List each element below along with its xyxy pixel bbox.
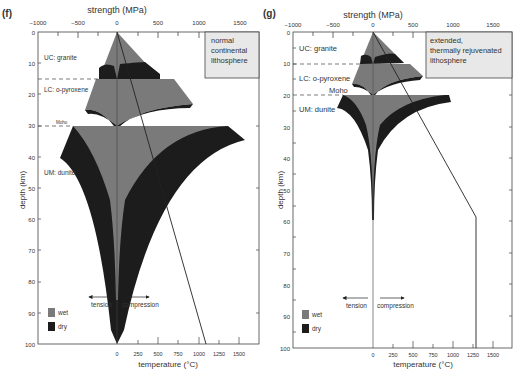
svg-text:70: 70 [283, 251, 290, 257]
svg-text:20: 20 [28, 92, 35, 98]
strength-ticks: −1000 −500 0 500 1000 1500 [30, 20, 248, 26]
svg-text:1000: 1000 [447, 352, 459, 358]
depth-axis-title: depth (km) [18, 171, 27, 210]
svg-text:1500: 1500 [486, 22, 500, 28]
svg-text:1250: 1250 [213, 351, 225, 357]
lc-envelope [85, 79, 193, 126]
svg-text:1000: 1000 [193, 351, 205, 357]
lc-envelope [352, 64, 423, 95]
temperature-tick-marks [138, 337, 239, 344]
svg-text:1500: 1500 [233, 20, 247, 26]
svg-text:500: 500 [408, 22, 419, 28]
svg-text:500: 500 [408, 352, 417, 358]
legend-dry-label: dry [312, 325, 322, 333]
legend-wet-swatch [48, 308, 55, 317]
svg-text:90: 90 [283, 314, 290, 320]
depth-axis-title: depth (km) [276, 171, 285, 210]
temperature-ticks: 0 250 500 750 1000 1250 1500 [115, 351, 245, 357]
svg-text:continental: continental [211, 46, 248, 55]
svg-text:1500: 1500 [487, 352, 499, 358]
temperature-axis-title: temperature (°C) [138, 360, 198, 369]
lc-label: LC: o-pyroxene [44, 86, 89, 94]
svg-text:100: 100 [280, 346, 291, 352]
compression-label: compression [122, 301, 159, 309]
svg-text:30: 30 [283, 125, 290, 131]
svg-text:−500: −500 [71, 20, 85, 26]
svg-text:20: 20 [283, 93, 290, 99]
svg-text:750: 750 [173, 351, 182, 357]
uc-label: UC: granite [44, 54, 77, 62]
uc-envelope [99, 32, 160, 79]
svg-text:750: 750 [428, 352, 437, 358]
svg-text:−1000: −1000 [30, 20, 48, 26]
temperature-tick-marks [393, 341, 493, 348]
panel-g: (g) strength (MPa) −1000 −500 0 500 1000… [263, 8, 512, 369]
legend-wet-swatch [302, 310, 309, 319]
top-ticks [313, 32, 413, 38]
svg-text:lithosphere: lithosphere [430, 56, 467, 65]
title-box: extended, thermally rejuvenated lithosph… [426, 32, 512, 78]
svg-text:0: 0 [371, 352, 374, 358]
depth-tick-marks [293, 48, 512, 332]
lc-label: LC: o-pyroxene [299, 74, 350, 83]
panel-f: (f) strength (MPa) −1000 −500 0 500 1000… [2, 5, 259, 369]
svg-text:250: 250 [133, 351, 142, 357]
svg-text:80: 80 [28, 279, 35, 285]
figure: (f) strength (MPa) −1000 −500 0 500 1000… [0, 0, 523, 383]
svg-text:50: 50 [28, 186, 35, 192]
strength-axis-title: strength (MPa) [87, 5, 147, 15]
legend-dry-swatch [302, 324, 309, 333]
svg-text:extended,: extended, [430, 36, 463, 45]
title-box: normal continental lithosphere [205, 32, 259, 78]
tension-label: tension [346, 302, 367, 309]
top-ticks [58, 32, 199, 38]
um-label: UM: dunite [299, 105, 335, 114]
legend-dry-swatch [48, 322, 55, 331]
legend-wet-label: wet [57, 309, 68, 316]
svg-text:70: 70 [28, 248, 35, 254]
svg-text:1500: 1500 [233, 351, 245, 357]
svg-text:1000: 1000 [192, 20, 206, 26]
svg-text:40: 40 [283, 156, 290, 162]
svg-text:500: 500 [153, 351, 162, 357]
moho-label: Moho [329, 86, 348, 95]
svg-text:normal: normal [211, 36, 234, 45]
moho-label: Moho [56, 120, 68, 125]
svg-text:90: 90 [28, 311, 35, 317]
compression-label: compression [377, 302, 414, 310]
svg-text:1000: 1000 [446, 22, 460, 28]
svg-text:60: 60 [28, 217, 35, 223]
svg-text:0: 0 [32, 30, 36, 36]
svg-text:1250: 1250 [467, 352, 479, 358]
legend-dry-label: dry [58, 323, 68, 331]
svg-text:500: 500 [153, 20, 164, 26]
svg-text:250: 250 [388, 352, 397, 358]
tension-label: tension [91, 301, 112, 308]
svg-text:80: 80 [283, 283, 290, 289]
svg-text:40: 40 [28, 155, 35, 161]
svg-text:0: 0 [115, 351, 118, 357]
svg-text:60: 60 [283, 219, 290, 225]
panel-label: (g) [263, 8, 276, 19]
svg-text:−1000: −1000 [285, 22, 303, 28]
svg-text:0: 0 [115, 20, 119, 26]
svg-text:0: 0 [287, 30, 291, 36]
svg-text:0: 0 [371, 22, 375, 28]
svg-text:100: 100 [25, 342, 36, 348]
legend-wet-label: wet [311, 311, 322, 318]
strength-axis-title: strength (MPa) [343, 10, 403, 20]
svg-text:−500: −500 [326, 22, 340, 28]
uc-label: UC: granite [299, 44, 337, 53]
svg-text:thermally rejuvenated: thermally rejuvenated [430, 46, 502, 55]
svg-text:10: 10 [28, 61, 35, 67]
temperature-ticks: 0 250 500 750 1000 1250 1500 [371, 352, 499, 358]
um-label: UM: dunite [44, 169, 76, 176]
um-envelope [337, 95, 451, 220]
temperature-axis-title: temperature (°C) [393, 360, 453, 369]
svg-text:lithosphere: lithosphere [211, 56, 248, 65]
um-envelope [60, 126, 245, 344]
svg-text:30: 30 [28, 123, 35, 129]
panel-label: (f) [2, 8, 12, 19]
strength-ticks: −1000 −500 0 500 1000 1500 [285, 22, 501, 28]
svg-text:10: 10 [283, 61, 290, 67]
